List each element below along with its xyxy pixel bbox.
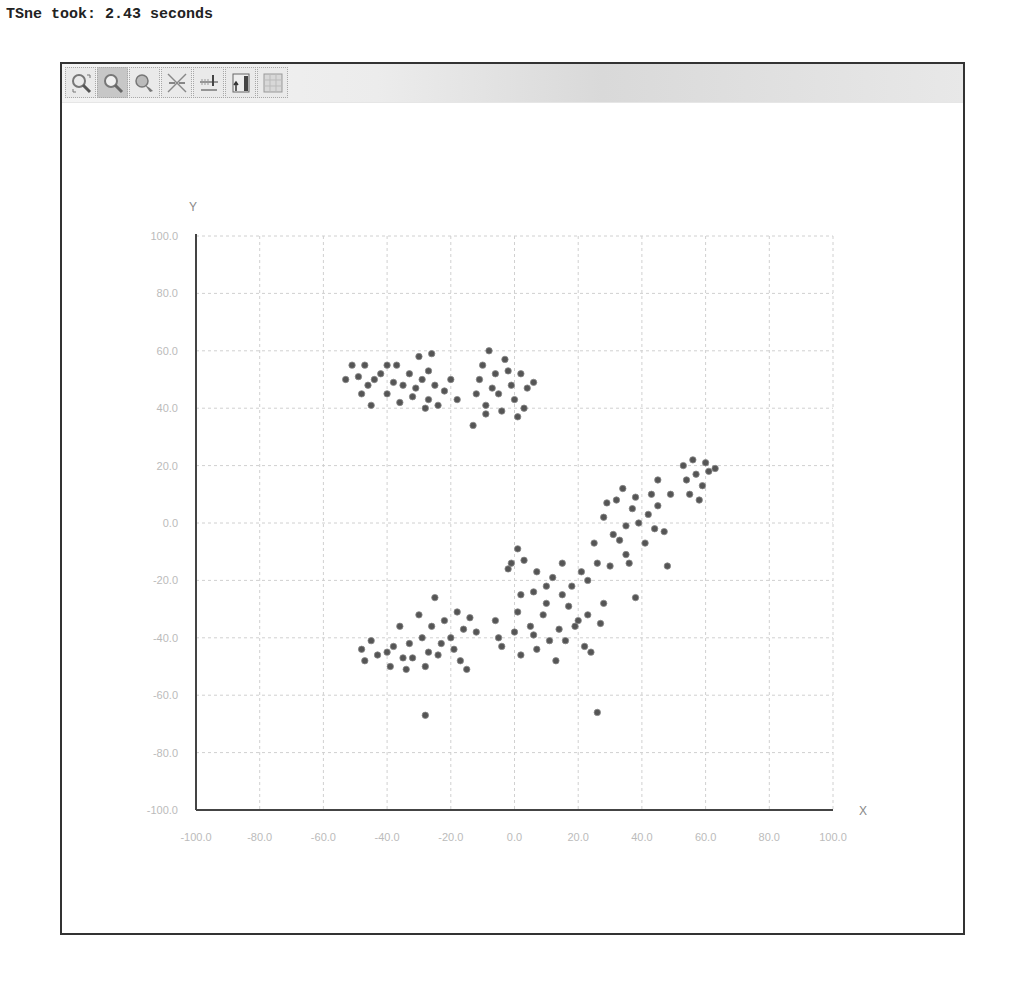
data-point [559,592,565,598]
data-point [626,560,632,566]
data-point [565,603,571,609]
data-point [464,666,470,672]
data-point [425,368,431,374]
x-tick-label: -20.0 [438,831,463,843]
data-point [511,396,517,402]
data-point [374,652,380,658]
y-tick-label: -20.0 [153,574,178,586]
data-point [661,528,667,534]
data-point [686,491,692,497]
data-point [578,569,584,575]
data-point [390,379,396,385]
data-point [585,577,591,583]
data-point [368,637,374,643]
data-point [597,620,603,626]
data-point [604,500,610,506]
data-point [632,494,638,500]
data-point [636,520,642,526]
data-point [384,362,390,368]
data-point [521,405,527,411]
x-tick-label: 20.0 [567,831,588,843]
y-tick-label: -80.0 [153,747,178,759]
data-point [441,617,447,623]
data-point [495,635,501,641]
data-point [683,477,689,483]
data-point [483,402,489,408]
data-point [508,560,514,566]
scatter-plot[interactable]: -100.0-80.0-60.0-40.0-20.00.020.040.060.… [0,0,1019,994]
data-point [706,468,712,474]
data-point [499,643,505,649]
data-point [355,373,361,379]
data-point [393,362,399,368]
data-point [616,537,622,543]
data-point [505,566,511,572]
data-point [390,643,396,649]
data-point [400,382,406,388]
y-tick-label: 80.0 [157,287,178,299]
data-point [342,376,348,382]
data-point [534,646,540,652]
x-tick-label: 60.0 [695,831,716,843]
data-point [527,623,533,629]
data-point [448,376,454,382]
y-tick-label: 40.0 [157,402,178,414]
data-point [400,655,406,661]
x-tick-label: -80.0 [247,831,272,843]
data-point [378,371,384,377]
data-point [454,609,460,615]
data-point [667,491,673,497]
data-point [483,411,489,417]
data-point [543,583,549,589]
data-point [425,649,431,655]
data-point [594,709,600,715]
data-point [585,612,591,618]
data-point [518,652,524,658]
data-point [419,376,425,382]
data-point [451,646,457,652]
data-point [591,540,597,546]
data-point [454,396,460,402]
data-point [553,658,559,664]
data-point [655,503,661,509]
data-point [540,612,546,618]
data-point [438,640,444,646]
data-point [397,399,403,405]
x-tick-label: 80.0 [759,831,780,843]
data-point [371,376,377,382]
data-point [422,663,428,669]
data-point [419,635,425,641]
y-tick-label: 100.0 [150,230,178,242]
data-point [712,465,718,471]
y-axis-label: Y [189,200,197,214]
data-point [696,497,702,503]
y-tick-label: 20.0 [157,460,178,472]
data-point [642,540,648,546]
data-point [613,497,619,503]
data-point [594,560,600,566]
data-point [448,635,454,641]
data-point [511,629,517,635]
data-point [690,457,696,463]
data-point [521,557,527,563]
x-tick-label: -100.0 [180,831,211,843]
data-point [680,462,686,468]
x-tick-label: 40.0 [631,831,652,843]
data-point [368,402,374,408]
y-tick-label: -60.0 [153,689,178,701]
data-point [495,391,501,397]
data-point [600,514,606,520]
data-point [508,382,514,388]
data-point [349,362,355,368]
x-tick-label: -60.0 [311,831,336,843]
data-point [358,391,364,397]
data-point [623,523,629,529]
data-point [620,485,626,491]
data-point [387,663,393,669]
data-point [406,371,412,377]
data-point [432,594,438,600]
data-point [432,382,438,388]
data-point [610,531,616,537]
data-point [406,640,412,646]
data-point [559,560,565,566]
